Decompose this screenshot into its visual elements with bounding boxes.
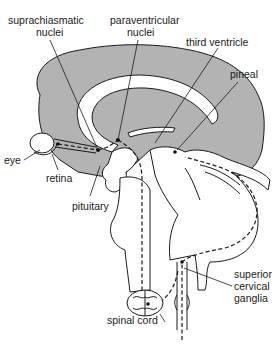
label-suprachiasmatic-line1: suprachiasmatic xyxy=(8,14,84,26)
leader-spinal-cord xyxy=(160,314,165,322)
cerebral-hemisphere xyxy=(37,45,264,178)
ganglion-dot xyxy=(180,260,184,264)
retina-dot xyxy=(56,142,60,146)
spinal-dot xyxy=(146,302,150,306)
eye-globe xyxy=(30,133,54,153)
leader-ganglia xyxy=(184,268,232,286)
label-superior-cervical-line3: ganglia xyxy=(234,292,268,304)
label-paraventricular-line2: nuclei xyxy=(127,26,154,38)
label-eye: eye xyxy=(4,154,21,166)
pineal-dot xyxy=(173,150,177,154)
label-retina: retina xyxy=(46,172,72,184)
pons xyxy=(111,177,150,292)
label-superior-cervical-line2: cervical xyxy=(234,280,270,292)
label-third-ventricle: third ventricle xyxy=(186,36,249,48)
label-suprachiasmatic-line2: nuclei xyxy=(36,26,63,38)
retina-pineal-pathway-diagram: suprachiasmatic nuclei paraventricular n… xyxy=(0,0,276,346)
label-paraventricular-line1: paraventricular xyxy=(110,14,180,26)
label-pineal: pineal xyxy=(230,68,258,80)
label-spinal-cord: spinal cord xyxy=(107,314,158,326)
leader-eye xyxy=(24,150,40,160)
label-superior-cervical-line1: superior xyxy=(234,268,272,280)
label-pituitary: pituitary xyxy=(72,200,110,212)
